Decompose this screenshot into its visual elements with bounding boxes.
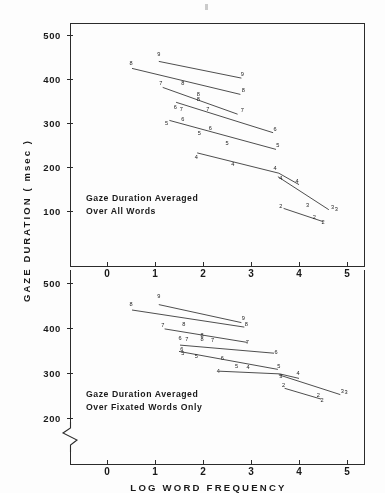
point-label-5: 5 [181,350,184,356]
x-axis-title: LOG WORD FREQUENCY [16,482,385,493]
point-label-9: 9 [241,71,244,77]
series-line-6 [176,102,273,132]
point-label-5: 5 [195,353,198,359]
point-label-3: 3 [331,204,334,210]
point-label-6: 6 [181,116,184,122]
point-label-7: 7 [159,80,162,86]
point-label-6: 6 [221,355,224,361]
point-label-7: 7 [211,337,214,343]
point-label-6: 6 [178,335,181,341]
point-label-2: 2 [313,214,316,220]
series-line-9 [159,61,242,78]
point-label-3: 3 [341,388,344,394]
point-label-4: 4 [273,165,276,171]
point-label-6: 6 [274,349,277,355]
point-label-7: 7 [206,106,209,112]
point-label-2: 2 [317,392,320,398]
panel-all-words: 500 400 300 200 100 0 1 2 3 4 5 Gaze Dur… [0,0,385,270]
point-label-5: 5 [276,142,279,148]
point-label-3: 3 [306,202,309,208]
point-label-5: 5 [225,140,228,146]
point-label-8: 8 [181,80,184,86]
point-label-8: 8 [129,60,132,66]
panel-bottom-plot: 9988888777766665555444333222 [0,270,385,493]
point-label-6: 6 [273,126,276,132]
point-label-3: 3 [335,206,338,212]
point-label-5: 5 [235,363,238,369]
point-label-8: 8 [129,301,132,307]
point-label-4: 4 [195,154,198,160]
point-label-4: 4 [217,368,220,374]
point-label-8: 8 [182,321,185,327]
panel-top-plot: 998888877776666555544444333222 [0,0,385,270]
point-label-5: 5 [165,120,168,126]
point-label-4: 4 [296,178,299,184]
point-label-8: 8 [200,336,203,342]
point-label-4: 4 [247,364,250,370]
series-line-3 [279,375,341,395]
point-label-8: 8 [242,87,245,93]
series-line-8 [132,310,244,327]
series-line-7 [165,329,248,343]
point-label-2: 2 [279,203,282,209]
series-line-3 [278,177,329,210]
point-label-9: 9 [157,51,160,57]
point-label-7: 7 [241,107,244,113]
point-label-6: 6 [174,104,177,110]
panel-fixated-words: 500 400 300 200 0 1 2 3 4 5 Gaze Duratio… [0,270,385,493]
series-line-5 [169,120,276,149]
point-label-8: 8 [197,96,200,102]
point-label-9: 9 [157,293,160,299]
series-line-9 [159,305,242,323]
series-line-2 [284,208,323,221]
point-label-7: 7 [161,322,164,328]
point-label-5: 5 [198,130,201,136]
point-label-2: 2 [321,219,324,225]
point-label-7: 7 [246,339,249,345]
point-label-7: 7 [180,106,183,112]
point-label-8: 8 [245,321,248,327]
point-label-3: 3 [279,373,282,379]
point-label-2: 2 [320,397,323,403]
point-label-5: 5 [277,363,280,369]
series-line-2 [285,388,322,399]
figure-page: GAZE DURATION ( msec ) 500 400 300 200 1… [0,0,385,493]
point-label-6: 6 [209,125,212,131]
point-label-4: 4 [296,370,299,376]
point-label-4: 4 [231,161,234,167]
point-label-7: 7 [185,336,188,342]
series-line-4 [197,153,299,185]
point-label-4: 4 [279,175,282,181]
point-label-2: 2 [282,382,285,388]
point-label-3: 3 [344,389,347,395]
series-line-8 [132,68,240,94]
